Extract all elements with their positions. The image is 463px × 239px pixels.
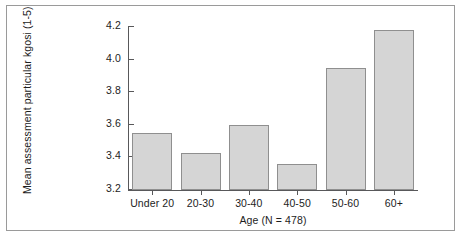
x-tick-mark: [297, 191, 298, 195]
y-tick-mark: [129, 124, 134, 125]
x-axis-title: Age (N = 478): [128, 214, 418, 226]
x-axis-line: [128, 190, 418, 191]
y-axis-line: [128, 26, 129, 191]
x-tick-mark: [249, 191, 250, 195]
bar: [374, 30, 414, 190]
y-axis-title: Mean assessment particular kgosi (1-5): [21, 14, 33, 194]
x-tick-label: 60+: [370, 197, 418, 209]
bar: [181, 153, 221, 190]
x-tick-label: 40-50: [273, 197, 321, 209]
x-tick-label: 50-60: [321, 197, 369, 209]
x-tick-label: Under 20: [128, 197, 176, 209]
y-tick-mark: [129, 59, 134, 60]
y-tick-mark: [129, 26, 134, 27]
x-tick-mark: [152, 191, 153, 195]
figure-frame: 3.23.43.63.84.04.2 Under 2020-3030-4040-…: [6, 5, 455, 231]
bar: [229, 125, 269, 190]
x-tick-label: 20-30: [176, 197, 224, 209]
x-tick-mark: [346, 191, 347, 195]
x-tick-mark: [394, 191, 395, 195]
x-tick-mark: [201, 191, 202, 195]
x-tick-label: 30-40: [225, 197, 273, 209]
y-tick-mark: [129, 91, 134, 92]
bar: [132, 133, 172, 190]
bar: [326, 68, 366, 190]
bar: [277, 164, 317, 190]
